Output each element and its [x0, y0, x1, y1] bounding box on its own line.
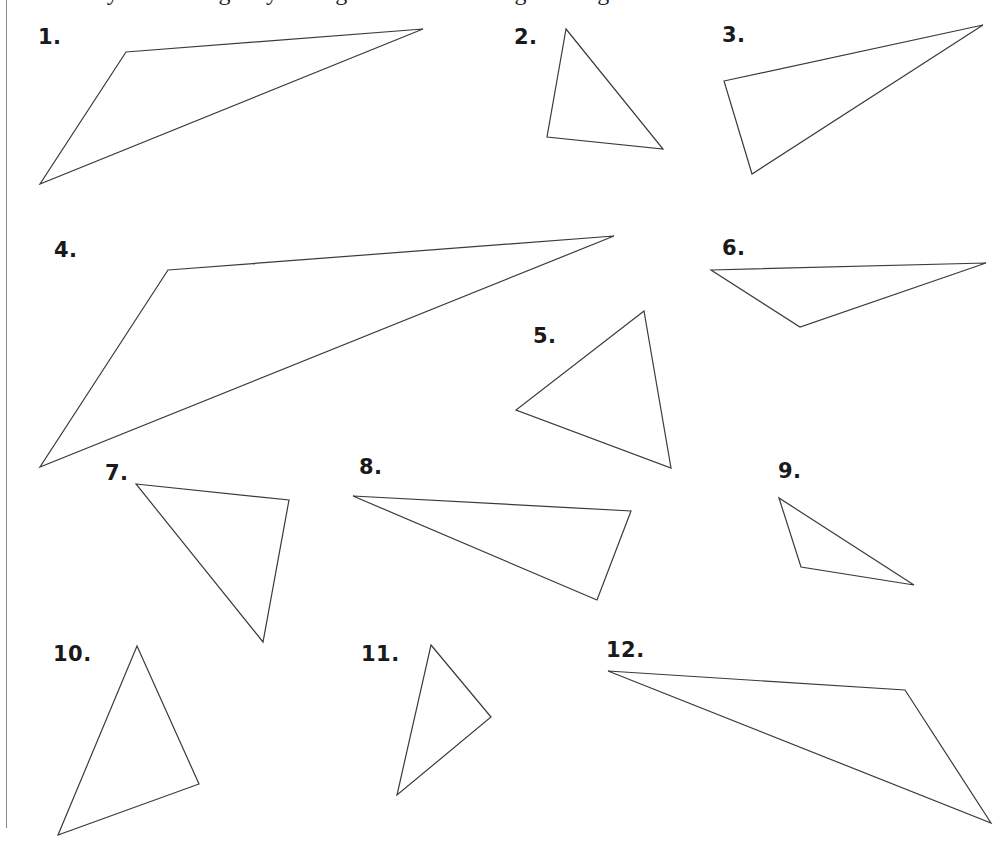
triangle-10	[58, 646, 199, 835]
triangle-11	[397, 645, 491, 795]
triangle-6	[711, 263, 986, 327]
worksheet-page: Classify each triangle by its angles and…	[0, 0, 1002, 853]
triangle-figures	[0, 0, 1002, 853]
figure-label-10: 10.	[53, 644, 92, 665]
triangle-7	[136, 484, 289, 642]
figure-label-9: 9.	[778, 461, 802, 482]
figure-label-7: 7.	[105, 463, 129, 484]
figure-label-4: 4.	[54, 240, 78, 261]
figure-label-12: 12.	[606, 640, 645, 661]
triangle-8	[353, 496, 631, 600]
figure-label-2: 2.	[514, 27, 538, 48]
triangle-2	[547, 29, 663, 149]
figure-label-3: 3.	[722, 25, 746, 46]
triangle-4	[40, 236, 614, 467]
figure-label-5: 5.	[533, 326, 557, 347]
triangle-9	[779, 498, 914, 585]
triangle-3	[724, 25, 983, 174]
triangle-12	[608, 671, 991, 823]
triangle-1	[40, 29, 423, 184]
figure-label-11: 11.	[361, 644, 400, 665]
figure-label-6: 6.	[722, 238, 746, 259]
figure-label-8: 8.	[359, 457, 383, 478]
figure-label-1: 1.	[38, 27, 62, 48]
